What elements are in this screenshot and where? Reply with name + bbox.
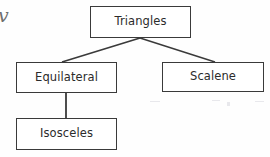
node-scalene-label: Scalene [190, 71, 236, 83]
edge-triangles-to-equilateral [62, 38, 140, 62]
margin-glyph-artifact: v [0, 4, 9, 26]
node-triangles[interactable]: Triangles [90, 6, 191, 38]
node-isosceles[interactable]: Isosceles [16, 118, 117, 150]
diagram-canvas: v Triangles Equilateral Scalene Isoscele… [0, 0, 270, 157]
node-scalene[interactable]: Scalene [162, 62, 264, 92]
edge-triangles-to-scalene [140, 38, 215, 62]
node-equilateral-label: Equilateral [35, 72, 98, 84]
node-isosceles-label: Isosceles [40, 128, 93, 140]
node-equilateral[interactable]: Equilateral [16, 62, 117, 93]
node-triangles-label: Triangles [114, 16, 166, 28]
